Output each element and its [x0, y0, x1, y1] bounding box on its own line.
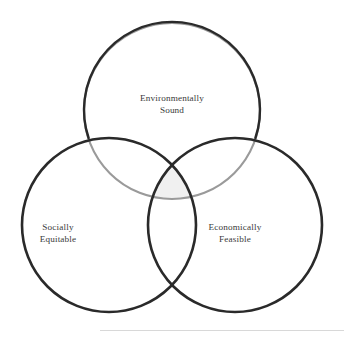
socially-equitable-label: Socially Equitable: [6, 222, 110, 245]
venn-diagram-canvas: [0, 0, 344, 338]
bottom-rule: [100, 330, 344, 331]
environmentally-sound-label-line-2: Sound: [0, 105, 344, 117]
economically-feasible-label-line-1: Economically: [180, 222, 290, 234]
economically-feasible-label: Economically Feasible: [180, 222, 290, 245]
environmentally-sound-label-line-1: Environmentally: [0, 93, 344, 105]
socially-equitable-label-line-2: Equitable: [6, 234, 110, 246]
environmentally-sound-circle-dark-arc: [84, 22, 260, 138]
economically-feasible-label-line-2: Feasible: [180, 234, 290, 246]
environmentally-sound-label: Environmentally Sound: [0, 93, 344, 116]
socially-equitable-label-line-1: Socially: [6, 222, 110, 234]
venn-diagram: Environmentally Sound Socially Equitable…: [0, 0, 344, 338]
